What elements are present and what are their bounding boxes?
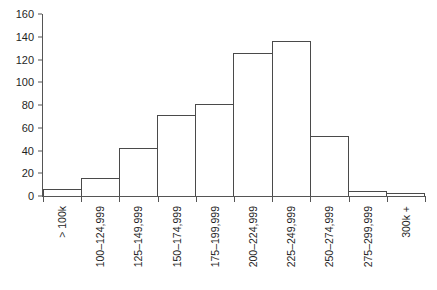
x-axis-tick-mark bbox=[158, 197, 159, 202]
y-axis-tick-label: 140 bbox=[16, 31, 34, 42]
x-axis: > 100k100–124,999125–149,999150–174,9991… bbox=[43, 204, 425, 290]
x-axis-tick-mark bbox=[196, 197, 197, 202]
histogram-chart: 160140120100806040200 > 100k100–124,9991… bbox=[0, 0, 437, 290]
x-axis-tick-label: 250–274,999 bbox=[324, 206, 335, 267]
x-axis-label-slot: 100–124,999 bbox=[81, 204, 119, 290]
y-axis-tick-label: 40 bbox=[22, 145, 34, 156]
bar-series bbox=[43, 14, 425, 196]
x-axis-tick-mark bbox=[81, 197, 82, 202]
y-axis-tick-label: 160 bbox=[16, 9, 34, 20]
x-axis-tick-label: 125–149,999 bbox=[133, 206, 144, 267]
y-axis-tick-label: 120 bbox=[16, 54, 34, 65]
x-axis-tick-mark bbox=[310, 197, 311, 202]
bar bbox=[386, 193, 425, 196]
bar bbox=[119, 148, 158, 196]
x-axis-tick-mark bbox=[43, 197, 44, 202]
bar bbox=[195, 104, 234, 196]
x-axis-label-slot: 150–174,999 bbox=[158, 204, 196, 290]
x-axis-tick-mark bbox=[234, 197, 235, 202]
x-axis-tick-label: 300k + bbox=[400, 206, 411, 238]
x-axis-label-slot: 250–274,999 bbox=[310, 204, 348, 290]
x-axis-tick-mark bbox=[272, 197, 273, 202]
y-axis-tick-label: 80 bbox=[22, 100, 34, 111]
y-axis-tick-label: 60 bbox=[22, 122, 34, 133]
bar bbox=[43, 189, 82, 196]
bar bbox=[233, 53, 272, 196]
x-axis-tick-label: 200–224,999 bbox=[248, 206, 259, 267]
x-axis-tick-label: 150–174,999 bbox=[171, 206, 182, 267]
x-axis-label-slot: > 100k bbox=[43, 204, 81, 290]
x-axis-tick-label: 100–124,999 bbox=[95, 206, 106, 267]
x-axis-tick-mark bbox=[425, 197, 426, 202]
x-axis-label-slot: 225–249,999 bbox=[272, 204, 310, 290]
bar bbox=[348, 191, 387, 196]
x-axis-tick-mark bbox=[349, 197, 350, 202]
x-axis-tick-mark bbox=[119, 197, 120, 202]
x-axis-tick-label: 275–299,999 bbox=[362, 206, 373, 267]
x-axis-tick-mark bbox=[387, 197, 388, 202]
x-axis-tick-label: 225–249,999 bbox=[286, 206, 297, 267]
x-axis-label-slot: 175–199,999 bbox=[196, 204, 234, 290]
plot-area bbox=[43, 14, 425, 196]
y-axis: 160140120100806040200 bbox=[0, 0, 42, 210]
x-axis-tick-label: > 100k bbox=[57, 206, 68, 238]
bar bbox=[272, 41, 311, 196]
bar bbox=[157, 115, 196, 196]
x-axis-label-slot: 125–149,999 bbox=[119, 204, 157, 290]
y-axis-tick-label: 100 bbox=[16, 77, 34, 88]
bar bbox=[81, 178, 120, 196]
x-axis-label-slot: 200–224,999 bbox=[234, 204, 272, 290]
x-axis-label-slot: 275–299,999 bbox=[349, 204, 387, 290]
y-axis-tick-label: 0 bbox=[28, 191, 34, 202]
x-axis-label-slot: 300k + bbox=[387, 204, 425, 290]
y-axis-tick-label: 20 bbox=[22, 168, 34, 179]
x-axis-ticks bbox=[43, 197, 425, 202]
x-axis-tick-label: 175–199,999 bbox=[209, 206, 220, 267]
bar bbox=[310, 136, 349, 196]
